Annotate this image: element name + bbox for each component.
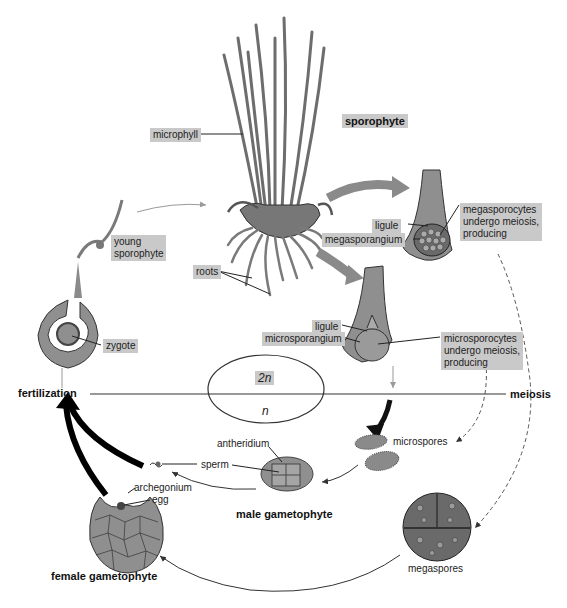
label-microsporocytes: microsporocytes undergo meiosis, produci… (441, 332, 523, 370)
label-egg: egg (152, 494, 169, 506)
stage-sporophyte: sporophyte (342, 114, 408, 128)
microphyll-leaves (224, 18, 324, 214)
stage-fertilization: fertilization (18, 387, 77, 399)
stage-meiosis: meiosis (510, 388, 551, 400)
label-megasporangium: megasporangium (322, 233, 405, 247)
label-zygote: zygote (103, 339, 138, 353)
label-microsporangium: microsporangium (262, 332, 345, 346)
ploidy-haploid: n (262, 405, 269, 417)
label-sperm: sperm (201, 459, 229, 471)
label-ligule-mega: ligule (372, 219, 401, 233)
label-microspores: microspores (393, 436, 447, 448)
zygote-archegonium-drawing (38, 300, 98, 368)
label-archegonium: archegonium (134, 482, 192, 494)
megaspore-drawing (403, 493, 471, 561)
label-roots: roots (193, 265, 221, 279)
stage-female-gametophyte: female gametophyte (51, 570, 157, 582)
label-antheridium: antheridium (217, 438, 269, 450)
stage-male-gametophyte: male gametophyte (236, 508, 333, 520)
label-megaspores: megaspores (408, 563, 463, 575)
ploidy-diploid: 2n (255, 371, 274, 385)
label-young-sporophyte: young sporophyte (111, 235, 166, 261)
male-gametophyte-drawing (261, 457, 313, 491)
label-microphyll: microphyll (150, 128, 201, 142)
megasporophyll (402, 170, 452, 260)
female-gametophyte-drawing (90, 497, 164, 573)
label-megasporocytes: megasporocytes undergo meiosis, producin… (460, 203, 542, 241)
roots-drawing (228, 228, 322, 295)
